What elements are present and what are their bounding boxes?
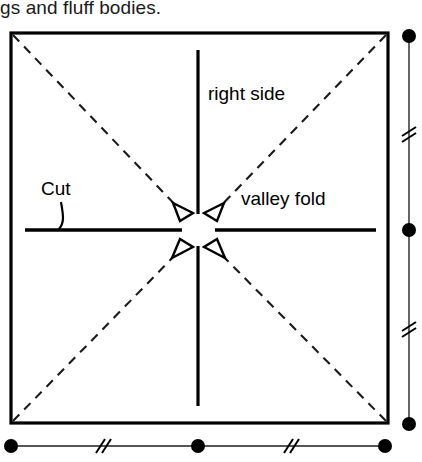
origami-fold-diagram: right side valley fold Cut <box>0 0 422 462</box>
bottom-ruler-dot-middle <box>191 439 205 453</box>
label-right-side: right side <box>208 83 285 104</box>
label-cut: Cut <box>41 178 71 199</box>
right-dimension-ruler <box>402 29 416 431</box>
right-ruler-dot-bottom <box>402 417 416 431</box>
bottom-ruler-dot-left <box>4 439 18 453</box>
right-ruler-dot-top <box>402 29 416 43</box>
label-valley-fold: valley fold <box>241 188 326 209</box>
bottom-ruler-dot-right <box>378 439 392 453</box>
diagram-page: gs and fluff bodies. <box>0 0 422 462</box>
bottom-dimension-ruler <box>4 439 392 453</box>
right-ruler-dot-middle <box>402 223 416 237</box>
